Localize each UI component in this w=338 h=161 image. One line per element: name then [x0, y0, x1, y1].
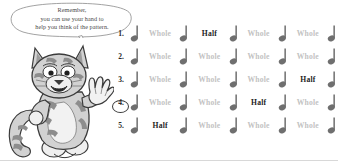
whole-note-label[interactable]: Whole — [240, 121, 278, 130]
whole-note-label[interactable]: Whole — [240, 52, 278, 61]
quarter-note-icon — [179, 48, 190, 65]
quarter-note-icon — [278, 71, 289, 88]
quarter-note-icon — [327, 71, 338, 88]
quarter-note-icon — [327, 25, 338, 42]
rhythm-pattern: WholeHalfWholeWhole — [130, 25, 338, 42]
bubble-line-1: Remember, — [8, 6, 136, 15]
whole-note-label[interactable]: Whole — [190, 52, 228, 61]
exercise-row[interactable]: 2.WholeWholeWholeWhole — [112, 45, 338, 68]
whole-note-label[interactable]: Whole — [289, 98, 327, 107]
quarter-note-icon — [327, 94, 338, 111]
exercise-number-circled: 4. — [112, 98, 130, 107]
whole-note-label[interactable]: Whole — [240, 29, 278, 38]
half-note-label[interactable]: Half — [141, 121, 179, 130]
exercise-row[interactable]: 1.WholeHalfWholeWhole — [112, 22, 338, 45]
quarter-note-icon — [278, 48, 289, 65]
quarter-note-icon — [130, 94, 141, 111]
whole-note-label[interactable]: Whole — [289, 121, 327, 130]
quarter-note-icon — [179, 71, 190, 88]
rhythm-pattern: WholeWholeWholeHalf — [130, 71, 338, 88]
whole-note-label[interactable]: Whole — [141, 75, 179, 84]
whole-note-label[interactable]: Whole — [289, 52, 327, 61]
cat-waving-hand — [89, 77, 114, 105]
quarter-note-icon — [130, 117, 141, 134]
whole-note-label[interactable]: Whole — [289, 29, 327, 38]
half-note-label[interactable]: Half — [240, 98, 278, 107]
exercise-number-label: 1. — [118, 29, 124, 38]
rhythm-pattern: HalfWholeWholeWhole — [130, 117, 338, 134]
quarter-note-icon — [327, 48, 338, 65]
whole-note-label[interactable]: Whole — [141, 29, 179, 38]
exercise-row[interactable]: 3.WholeWholeWholeHalf — [112, 68, 338, 91]
quarter-note-icon — [130, 71, 141, 88]
exercise-number: 2. — [112, 52, 130, 61]
quarter-note-icon — [278, 25, 289, 42]
half-note-label[interactable]: Half — [190, 29, 228, 38]
quarter-note-icon — [229, 71, 240, 88]
exercise-number: 3. — [112, 75, 130, 84]
rhythm-pattern: WholeWholeWholeWhole — [130, 48, 338, 65]
whole-note-label[interactable]: Whole — [190, 75, 228, 84]
whole-note-label[interactable]: Whole — [190, 98, 228, 107]
whole-note-label[interactable]: Whole — [190, 121, 228, 130]
whole-note-label[interactable]: Whole — [141, 52, 179, 61]
exercise-number: 5. — [112, 121, 130, 130]
quarter-note-icon — [229, 48, 240, 65]
exercise-list: 1.WholeHalfWholeWhole2.WholeWholeWholeWh… — [112, 22, 338, 137]
rhythm-pattern: WholeWholeHalfWhole — [130, 94, 338, 111]
exercise-row[interactable]: 4.WholeWholeHalfWhole — [112, 91, 338, 114]
striped-cat-mascot — [2, 30, 114, 161]
quarter-note-icon — [278, 117, 289, 134]
quarter-note-icon — [229, 94, 240, 111]
exercise-number-label: 3. — [118, 75, 124, 84]
half-note-label[interactable]: Half — [289, 75, 327, 84]
whole-note-label[interactable]: Whole — [141, 98, 179, 107]
exercise-number: 1. — [112, 29, 130, 38]
quarter-note-icon — [229, 117, 240, 134]
quarter-note-icon — [130, 25, 141, 42]
whole-note-label[interactable]: Whole — [240, 75, 278, 84]
quarter-note-icon — [278, 94, 289, 111]
worksheet-page: Remember, you can use your hand to help … — [0, 0, 338, 161]
quarter-note-icon — [179, 94, 190, 111]
quarter-note-icon — [179, 117, 190, 134]
quarter-note-icon — [229, 25, 240, 42]
quarter-note-icon — [130, 48, 141, 65]
exercise-number-label: 5. — [118, 121, 124, 130]
quarter-note-icon — [179, 25, 190, 42]
exercise-number-label: 2. — [118, 52, 124, 61]
quarter-note-icon — [327, 117, 338, 134]
exercise-row[interactable]: 5.HalfWholeWholeWhole — [112, 114, 338, 137]
exercise-number-label: 4. — [118, 98, 124, 107]
